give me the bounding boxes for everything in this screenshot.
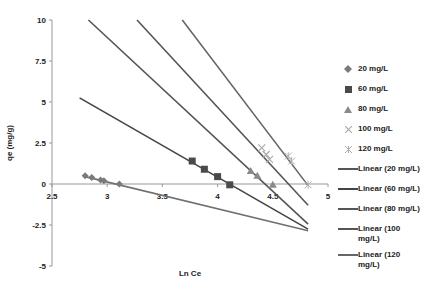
data-point [258,144,265,151]
data-points [82,144,312,188]
data-point [88,174,95,181]
data-point [226,181,233,188]
x-tick-label: 4 [215,192,220,201]
axes: 107.552.50-2.5-52.533.544.55 [32,16,331,271]
data-point [189,158,196,165]
y-axis-title: qe (mg/g) [5,125,14,161]
line-swatch-icon [338,168,358,170]
legend-item-80: 80 mg/L [338,104,435,124]
y-tick-label: -5 [39,262,47,271]
line-swatch-icon [338,254,358,256]
square-marker-icon [338,84,358,94]
legend-item-linear-20: Linear (20 mg/L) [338,164,435,184]
legend-item-linear-100: Linear (100 mg/L) [338,224,435,250]
data-point [214,173,221,180]
x-tick-label: 4.5 [267,192,279,201]
legend-label: Linear (120 mg/L) [358,250,418,270]
legend-label: Linear (60 mg/L) [358,184,420,194]
y-tick-label: 5 [42,98,47,107]
trendline [182,20,308,186]
legend-item-60: 60 mg/L [338,84,435,104]
triangle-marker-icon [338,104,358,114]
x-marker-icon [338,124,358,134]
star-marker-icon [338,144,358,154]
x-tick-label: 3 [105,192,110,201]
x-tick-label: 2.5 [46,192,58,201]
x-axis-title: Ln Ce [179,269,202,278]
legend-item-100: 100 mg/L [338,124,435,144]
legend-item-linear-60: Linear (60 mg/L) [338,184,435,204]
data-point [116,181,123,188]
x-tick-label: 5 [326,192,331,201]
legend-item-linear-120: Linear (120 mg/L) [338,250,435,276]
legend-label: 100 mg/L [358,124,393,134]
y-tick-label: 0 [42,180,47,189]
legend: 20 mg/L 60 mg/L 80 mg/L 100 mg/L 120 mg/… [338,64,435,276]
y-tick-label: 10 [37,16,46,25]
legend-label: Linear (20 mg/L) [358,164,420,174]
line-swatch-icon [338,228,358,230]
legend-item-linear-80: Linear (80 mg/L) [338,204,435,224]
diamond-marker-icon [338,64,358,74]
legend-item-20: 20 mg/L [338,64,435,84]
data-point [82,172,89,179]
legend-label: Linear (80 mg/L) [358,204,420,214]
line-swatch-icon [338,188,358,190]
legend-label: Linear (100 mg/L) [358,224,418,244]
data-point [201,166,208,173]
y-tick-label: -2.5 [32,221,46,230]
data-point [305,181,312,189]
y-tick-label: 2.5 [35,139,47,148]
legend-label: 80 mg/L [358,104,388,114]
legend-label: 20 mg/L [358,64,388,74]
y-tick-label: 7.5 [35,57,47,66]
legend-label: 120 mg/L [358,144,393,154]
legend-label: 60 mg/L [358,84,388,94]
trendline [137,20,308,205]
line-swatch-icon [338,208,358,210]
legend-item-120: 120 mg/L [338,144,435,164]
